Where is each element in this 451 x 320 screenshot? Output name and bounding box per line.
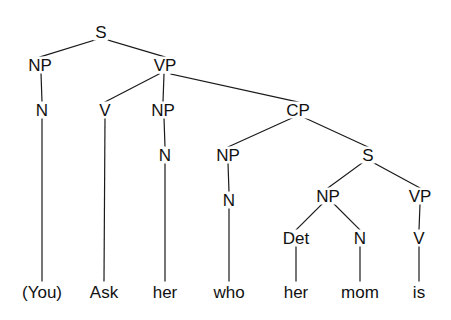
tree-edge-VP1-to-V1 <box>105 74 159 102</box>
tree-node-np4: NP <box>314 188 342 205</box>
tree-node-v1: V <box>97 102 112 119</box>
tree-node-det1: Det <box>281 230 311 247</box>
tree-node-np3: NP <box>214 147 242 164</box>
tree-leaf-w4: who <box>213 284 244 301</box>
tree-edge-S2-to-VP2 <box>374 163 420 188</box>
tree-edge-NP1-to-N1 <box>41 73 42 102</box>
tree-node-n2: N <box>157 147 173 164</box>
tree-node-n4: N <box>352 230 368 247</box>
tree-node-s: S <box>93 24 108 41</box>
syntax-tree-figure: SNPVPNVNPCPNNPSNNPVPDetNV (You)Askherwho… <box>0 0 451 320</box>
tree-edge-CP-to-S2 <box>305 118 368 147</box>
tree-node-np2: NP <box>149 102 177 119</box>
tree-node-s2: S <box>360 147 375 164</box>
tree-edge-S2-to-NP4 <box>328 163 362 188</box>
tree-edge-NP4-to-Det1 <box>296 204 322 230</box>
tree-leaf-w3: her <box>153 284 178 301</box>
tree-node-n1: N <box>34 102 50 119</box>
tree-edge-NP3-to-N3 <box>228 163 229 192</box>
tree-node-vp1: VP <box>152 57 179 74</box>
tree-edge-VP1-to-NP2 <box>163 74 164 102</box>
tree-leaf-w7: is <box>413 284 425 301</box>
tree-node-cp: CP <box>284 102 312 119</box>
tree-edge-NP2-to-N2 <box>164 118 165 147</box>
tree-leaf-w6: mom <box>341 284 379 301</box>
tree-leaf-w2: Ask <box>90 284 118 301</box>
tree-edge-VP2-to-V2 <box>419 204 420 230</box>
tree-node-v2: V <box>411 230 426 247</box>
tree-node-n3: N <box>221 192 237 209</box>
tree-edge-V1-to-w2 <box>104 118 105 281</box>
tree-leaf-w1: (You) <box>22 284 62 301</box>
tree-edge-S-to-NP1 <box>40 40 95 57</box>
tree-edge-VP1-to-CP <box>171 74 298 102</box>
tree-edge-S-to-VP1 <box>108 40 165 57</box>
tree-node-np1: NP <box>26 57 54 74</box>
tree-edge-CP-to-NP3 <box>228 118 292 147</box>
tree-edge-NP4-to-N4 <box>334 204 360 230</box>
tree-node-vp2: VP <box>407 188 434 205</box>
tree-leaf-w5: her <box>284 284 309 301</box>
